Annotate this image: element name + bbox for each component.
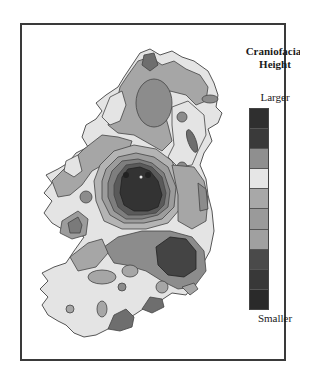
- contour-sw-oval1: [88, 270, 116, 284]
- contour-core-dot: [140, 176, 143, 179]
- legend-title: Craniofacial Height: [244, 45, 300, 71]
- legend-label-smaller: Smaller: [244, 312, 300, 324]
- legend-title-line1: Craniofacial: [244, 45, 300, 58]
- map-frame: Craniofacial Height Larger Smaller: [20, 23, 286, 361]
- legend-segment: [250, 290, 268, 309]
- legend-title-line2: Height: [244, 58, 300, 71]
- legend-segment: [250, 189, 268, 209]
- legend-segment: [250, 149, 268, 169]
- legend-segment: [250, 129, 268, 149]
- legend-segment: [250, 209, 268, 229]
- legend-segment: [250, 169, 268, 189]
- legend-segment: [250, 250, 268, 270]
- contour-kerry-spot: [66, 305, 74, 313]
- contour-ne-edge: [202, 95, 218, 103]
- contour-sw-spot: [118, 283, 126, 291]
- legend-segment: [250, 109, 268, 129]
- contour-s-spot: [156, 281, 168, 293]
- contour-ne-spot: [177, 112, 187, 122]
- legend-label-larger: Larger: [244, 91, 300, 103]
- contour-west-spot: [80, 191, 92, 203]
- contour-core-spot: [123, 172, 129, 178]
- contour-core-spot2: [145, 172, 151, 178]
- contour-north-oval: [136, 79, 172, 127]
- contour-kerry-oval: [97, 301, 107, 317]
- legend-segment: [250, 230, 268, 250]
- legend-color-scale: [249, 108, 269, 310]
- contour-sw-oval2: [122, 265, 138, 277]
- legend-segment: [250, 270, 268, 290]
- ireland-contour-map: [22, 25, 284, 359]
